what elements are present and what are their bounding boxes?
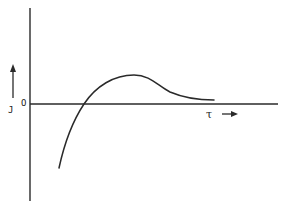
y-axis-label: J: [8, 106, 13, 115]
y-arrow-icon: [10, 64, 16, 98]
origin-label: O: [21, 99, 26, 108]
x-arrow-icon: [222, 111, 238, 117]
x-axis-label: τ: [206, 109, 212, 120]
diagram-figure: [0, 0, 284, 209]
j-tau-curve: [59, 75, 214, 168]
